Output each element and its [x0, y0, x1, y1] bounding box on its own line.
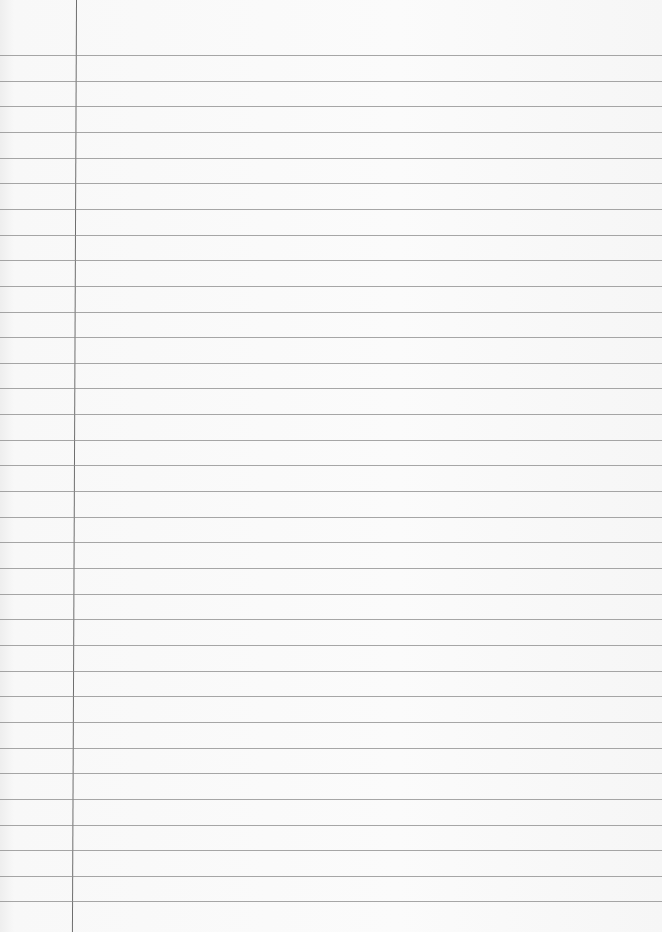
ruled-line	[0, 183, 662, 184]
ruled-line	[0, 363, 662, 364]
ruled-line	[0, 414, 662, 415]
ruled-line	[0, 722, 662, 723]
ruled-line	[0, 260, 662, 261]
ruled-line	[0, 850, 662, 851]
ruled-line	[0, 312, 662, 313]
ruled-line	[0, 286, 662, 287]
ruled-line	[0, 568, 662, 569]
ruled-line	[0, 876, 662, 877]
ruled-line	[0, 132, 662, 133]
ruled-line	[0, 158, 662, 159]
ruled-line	[0, 671, 662, 672]
ruled-line	[0, 594, 662, 595]
ruled-line	[0, 465, 662, 466]
ruled-line	[0, 337, 662, 338]
ruled-line	[0, 491, 662, 492]
ruled-line	[0, 106, 662, 107]
ruled-line	[0, 235, 662, 236]
ruled-line	[0, 901, 662, 902]
ruled-line	[0, 440, 662, 441]
ruled-line	[0, 542, 662, 543]
margin-line	[72, 0, 77, 932]
ruled-line	[0, 773, 662, 774]
ruled-line	[0, 799, 662, 800]
ruled-line	[0, 388, 662, 389]
notebook-page	[0, 0, 662, 932]
ruled-line	[0, 55, 662, 56]
ruled-line	[0, 619, 662, 620]
ruled-line	[0, 81, 662, 82]
ruled-line	[0, 748, 662, 749]
ruled-line	[0, 517, 662, 518]
ruled-line	[0, 825, 662, 826]
ruled-line	[0, 209, 662, 210]
ruled-line	[0, 645, 662, 646]
ruled-line	[0, 696, 662, 697]
